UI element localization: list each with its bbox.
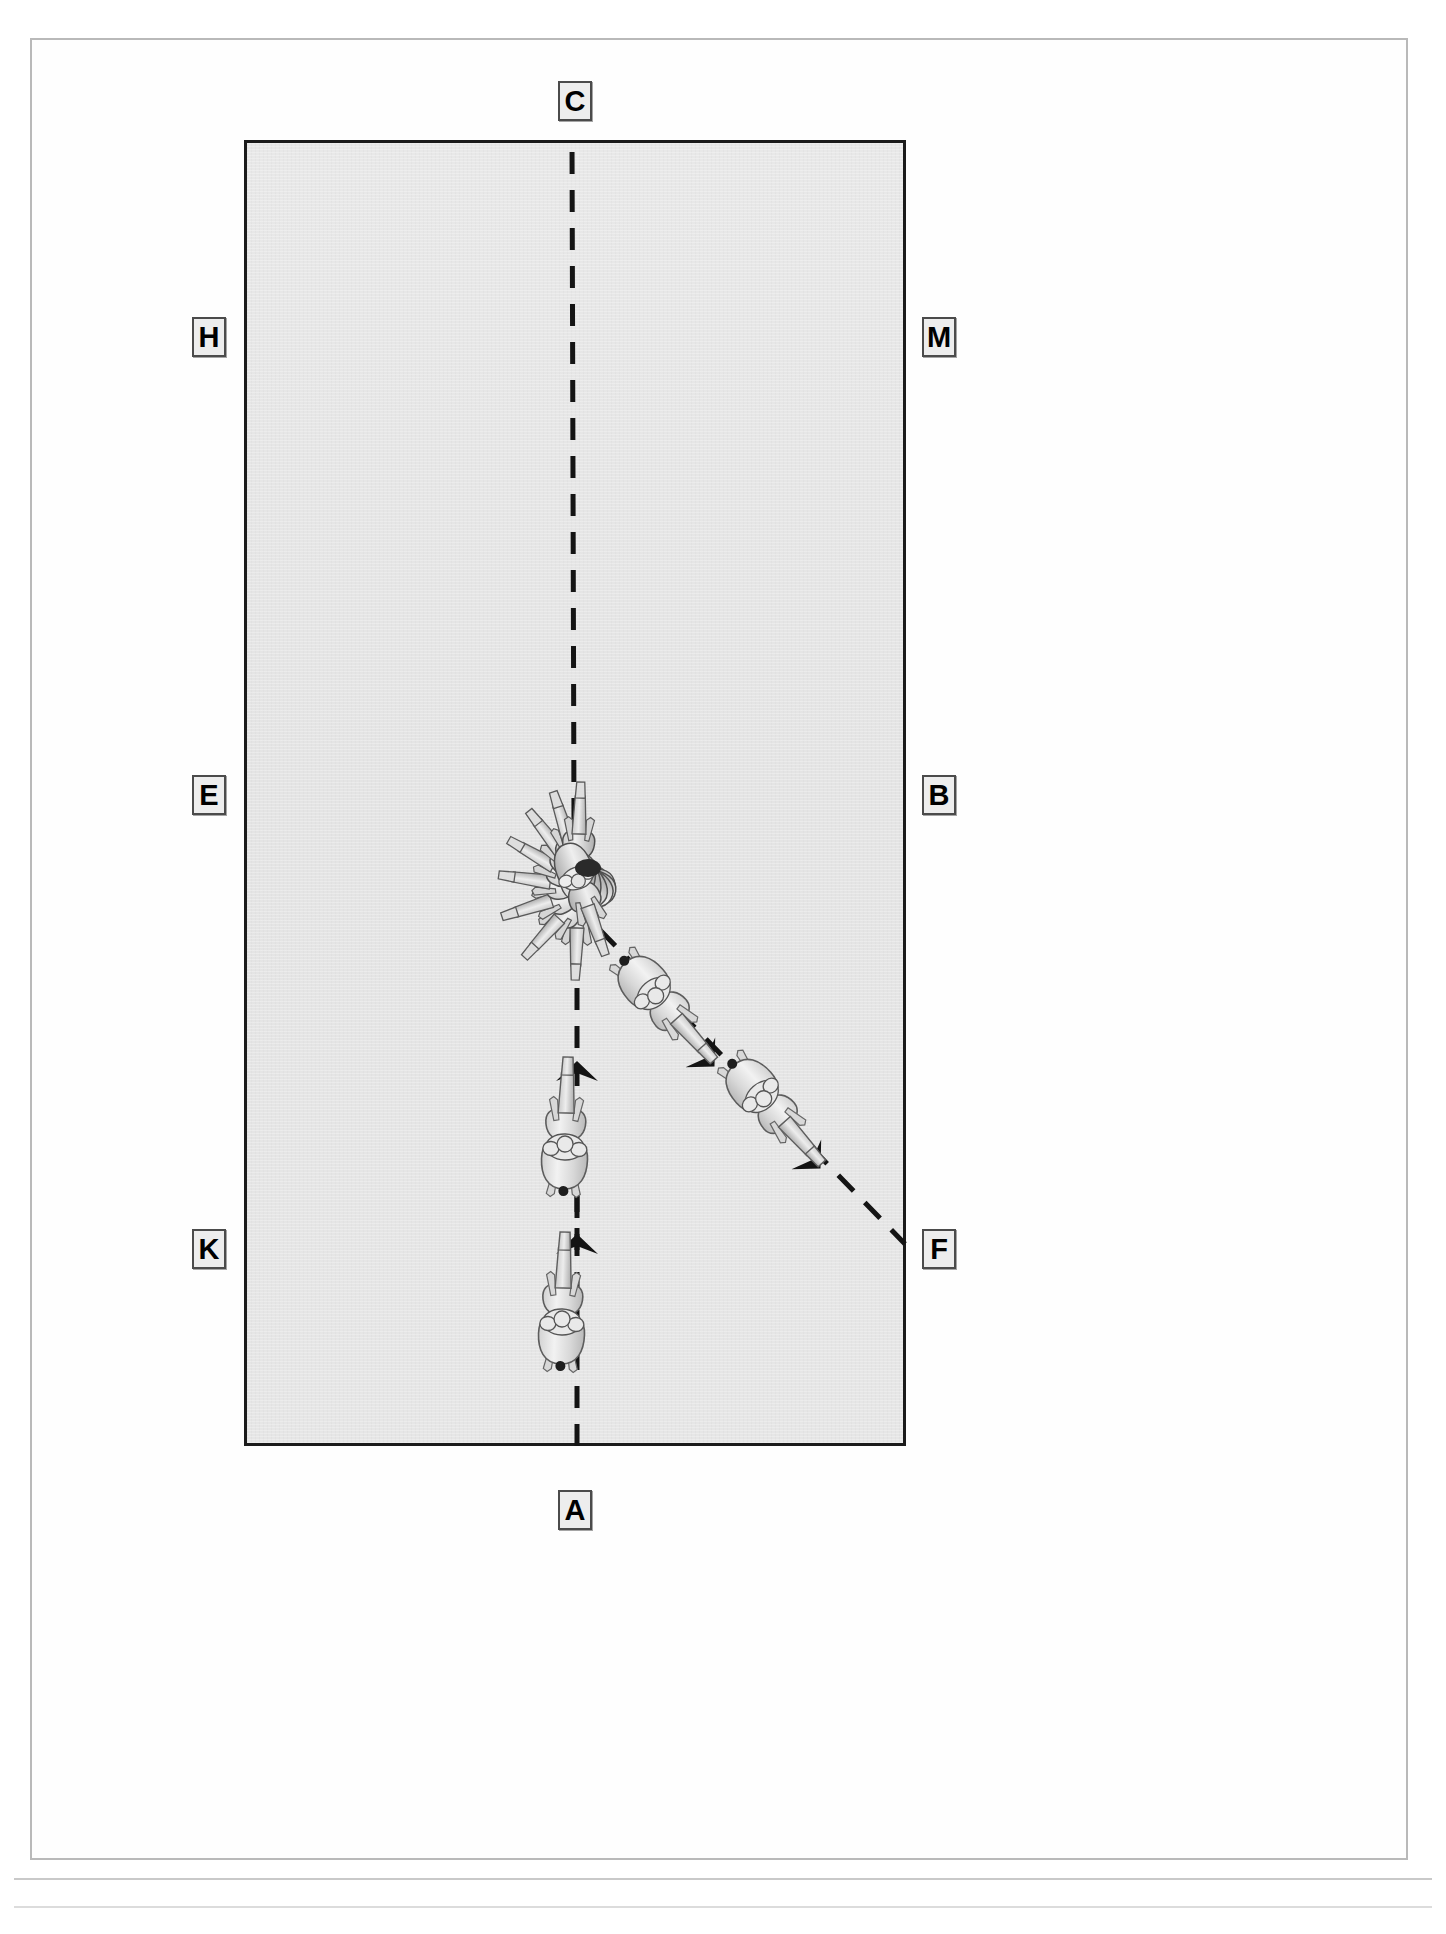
dressage-arena (244, 140, 906, 1446)
arena-letter-f[interactable]: F (922, 1229, 956, 1269)
page-root: C H M E B K F A (0, 0, 1446, 1934)
arena-letter-k[interactable]: K (192, 1229, 226, 1269)
scan-edge-line-bottom (14, 1906, 1432, 1908)
arena-letter-a[interactable]: A (558, 1490, 592, 1530)
arena-letter-c[interactable]: C (558, 81, 592, 121)
scan-edge-line-top (14, 1878, 1432, 1880)
arena-letter-m[interactable]: M (922, 317, 956, 357)
arena-letter-e[interactable]: E (192, 775, 226, 815)
arena-letter-b[interactable]: B (922, 775, 956, 815)
arena-letter-h[interactable]: H (192, 317, 226, 357)
